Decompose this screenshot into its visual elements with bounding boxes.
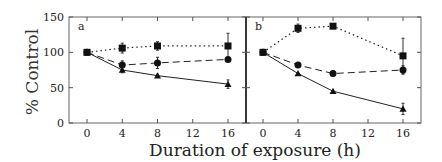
x-tick-label: 12 <box>361 127 375 140</box>
y-tick-label: 100 <box>43 46 64 59</box>
circle-marker <box>225 56 232 63</box>
square-marker <box>119 45 126 52</box>
square-marker <box>295 25 302 32</box>
y-tick-label: 150 <box>43 11 64 24</box>
chart-figure: % Control Duration of exposure (h) a b 0… <box>0 0 442 162</box>
y-tick-label: 50 <box>50 82 64 95</box>
square-marker <box>330 23 337 30</box>
panel-a-label: a <box>78 20 85 33</box>
x-tick-label: 12 <box>186 127 200 140</box>
circle-marker <box>400 67 407 74</box>
circle-marker <box>154 59 161 66</box>
square-marker <box>400 52 407 59</box>
x-tick-label: 8 <box>154 127 161 140</box>
x-tick-label: 0 <box>260 127 267 140</box>
triangle-marker <box>295 70 302 76</box>
square-marker <box>225 42 232 49</box>
axis-ticks: 05010015004812160481216 <box>43 11 421 140</box>
square-marker <box>154 42 161 49</box>
panel-b-label: b <box>255 20 262 33</box>
x-tick-label: 8 <box>330 127 337 140</box>
triangle-series-line <box>263 52 403 109</box>
circle-marker <box>295 62 302 69</box>
triangle-marker <box>330 88 337 94</box>
y-tick-label: 0 <box>57 117 64 130</box>
x-tick-label: 16 <box>221 127 235 140</box>
x-tick-label: 4 <box>119 127 126 140</box>
circle-marker <box>330 70 337 77</box>
y-axis-title: % Control <box>22 29 42 115</box>
x-tick-label: 16 <box>396 127 410 140</box>
x-tick-label: 0 <box>84 127 91 140</box>
x-tick-label: 4 <box>295 127 302 140</box>
data-series <box>84 23 407 115</box>
square-series-line <box>263 26 403 56</box>
x-axis-title: Duration of exposure (h) <box>149 140 361 160</box>
